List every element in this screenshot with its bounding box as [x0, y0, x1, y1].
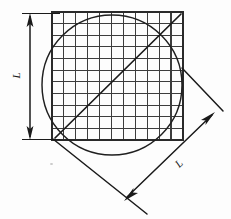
- arrowhead-down-left: [124, 188, 138, 201]
- figure-canvas: L L: [0, 0, 231, 219]
- vertical-dimension-L: [27, 13, 34, 140]
- square-diagonal-line: [55, 14, 181, 138]
- diagonal-extension-lines: [53, 68, 223, 214]
- extension-line-lower-left: [53, 139, 147, 214]
- vertical-dimension-label: L: [11, 72, 22, 78]
- geometry-diagram-svg: [0, 0, 231, 219]
- extension-line-upper-right: [182, 68, 223, 111]
- scan-artifact: [50, 163, 53, 165]
- vertical-extension-lines: [22, 14, 60, 140]
